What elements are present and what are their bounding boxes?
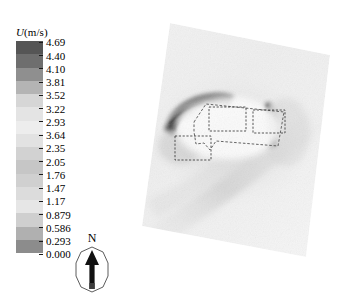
colorbar-tick-label: 2.93 [43,115,65,127]
colorbar-tick-label: 3.64 [43,128,65,140]
colorbar-tick-label: 1.76 [43,168,65,180]
colorbar-band [16,41,43,54]
colorbar-tick-mark [39,214,43,215]
colorbar-tick-value: 3.81 [44,76,65,88]
colorbar-band [16,174,43,187]
colorbar-legend: U(m/s) 4.694.404.103.813.523.222.933.642… [12,26,104,253]
colorbar-tick-label: 0.879 [43,207,71,219]
colorbar-tick-mark [39,161,43,162]
colorbar-tick-value: 3.52 [44,89,65,101]
north-arrow: N [70,232,114,298]
colorbar-title-variable: U [16,26,24,38]
colorbar-tick-value: 1.17 [44,195,65,207]
colorbar-tick-value: 1.76 [44,169,65,181]
colorbar-tick-label: 1.17 [43,194,65,206]
contour-map [120,0,355,304]
colorbar-band [16,160,43,173]
colorbar-tick-mark [39,108,43,109]
colorbar-tick-mark [39,254,43,255]
colorbar-tick-mark [39,188,43,189]
colorbar-tick-mark [39,201,43,202]
colorbar-band [16,121,43,134]
computational-domain [142,23,330,257]
colorbar-tick-value: 0.000 [44,248,71,260]
north-arrow-label: N [70,232,114,245]
colorbar-band [16,187,43,200]
colorbar-tick-label: 2.35 [43,141,65,153]
colorbar-tick-mark [39,95,43,96]
colorbar-tick-value: 0.293 [44,235,71,247]
colorbar-tick-label: 3.81 [43,75,65,87]
colorbar-tick-mark [39,227,43,228]
colorbar-band [16,134,43,147]
colorbar-tick-label: 0.000 [43,247,71,259]
colorbar-tick-label: 2.05 [43,154,65,166]
colorbar-tick-mark [39,82,43,83]
colorbar-band [16,68,43,81]
colorbar-tick-mark [39,68,43,69]
colorbar-tick-value: 0.879 [44,209,71,221]
north-arrow-icon [70,245,114,295]
colorbar-band [16,200,43,213]
colorbar-band [16,227,43,240]
colorbar-band [16,81,43,94]
colorbar-tick-value: 4.10 [44,63,65,75]
colorbar-tick-mark [39,42,43,43]
colorbar-band [16,54,43,67]
colorbar-tick-mark [39,121,43,122]
colorbar-tick-value: 3.22 [44,103,65,115]
colorbar-tick-value: 0.586 [44,222,71,234]
colorbar-tick-value: 4.40 [44,50,65,62]
colorbar-tick-mark [39,148,43,149]
colorbar-tick-value: 2.05 [44,156,65,168]
colorbar-tick-label: 0.293 [43,234,71,246]
colorbar-band [16,240,43,253]
colorbar-tick-value: 4.69 [44,36,65,48]
colorbar-tick-mark [39,174,43,175]
colorbar-tick-label: 3.52 [43,88,65,100]
colorbar-band [16,94,43,107]
colorbar-band [16,213,43,226]
colorbar-tick-labels: 4.694.404.103.813.523.222.933.642.352.05… [43,41,103,253]
colorbar-tick-value: 3.64 [44,129,65,141]
colorbar-body: 4.694.404.103.813.523.222.933.642.352.05… [12,41,104,253]
texture-overlay [142,23,330,257]
colorbar-tick-label: 4.69 [43,35,65,47]
colorbar-tick-label: 1.47 [43,181,65,193]
contour-map-panel [120,0,355,304]
colorbar-tick-label: 4.40 [43,48,65,60]
colorbar-band [16,107,43,120]
colorbar-tick-mark [39,135,43,136]
colorbar-band [16,147,43,160]
colorbar-tick-value: 1.47 [44,182,65,194]
colorbar-tick-value: 2.35 [44,142,65,154]
colorbar-tick-label: 3.22 [43,101,65,113]
colorbar-tick-mark [39,55,43,56]
colorbar-tick-value: 2.93 [44,116,65,128]
colorbar-tick-label: 0.586 [43,221,71,233]
colorbar-tick-label: 4.10 [43,62,65,74]
colorbar-tick-mark [39,241,43,242]
wind-speed-contour-figure: U(m/s) 4.694.404.103.813.523.222.933.642… [0,0,355,304]
